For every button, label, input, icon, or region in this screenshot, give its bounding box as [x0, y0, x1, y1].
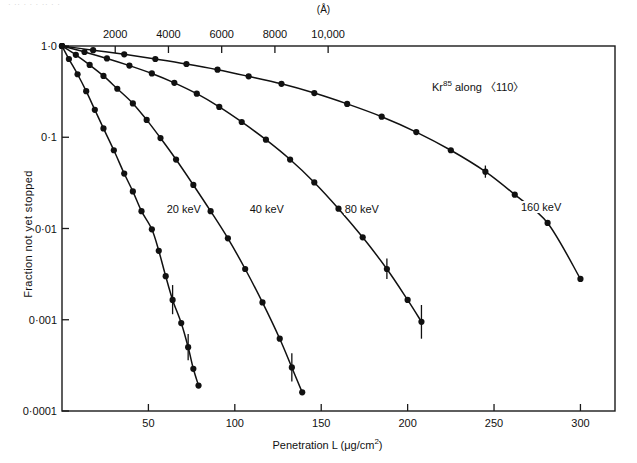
- data-point: [178, 320, 184, 326]
- data-point: [171, 80, 177, 86]
- data-point: [81, 49, 87, 55]
- data-point: [130, 188, 136, 194]
- data-point: [278, 81, 284, 87]
- data-point: [87, 62, 93, 68]
- data-point: [242, 266, 248, 272]
- top-tick-label: 10,000: [311, 28, 345, 40]
- y-tick-label: 1·0: [41, 40, 57, 52]
- data-point: [173, 156, 179, 162]
- curve-label-20-kev: 20 keV: [166, 203, 202, 215]
- data-point: [289, 364, 295, 370]
- data-point: [214, 67, 220, 73]
- data-point: [156, 248, 162, 254]
- data-point: [83, 88, 89, 94]
- data-point: [130, 100, 136, 106]
- x-tick-label: 200: [398, 417, 416, 429]
- annotation-mass-number: 85: [443, 79, 452, 88]
- data-point: [335, 206, 341, 212]
- data-point: [577, 276, 583, 282]
- data-point: [100, 125, 106, 131]
- data-point: [100, 73, 106, 79]
- y-tick-label: 0·01: [35, 223, 57, 235]
- data-curves: [62, 46, 580, 392]
- data-point: [138, 208, 144, 214]
- top-tick-label: 6000: [209, 28, 233, 40]
- data-point: [185, 344, 191, 350]
- data-point: [208, 208, 214, 214]
- data-point: [183, 61, 189, 67]
- data-point: [225, 235, 231, 241]
- x-tick-label: 50: [142, 417, 154, 429]
- data-point: [190, 182, 196, 188]
- x-axis-title: Penetration L (μg/cm2): [0, 437, 637, 451]
- chart-plot-area: [0, 0, 637, 463]
- data-point: [74, 71, 80, 77]
- data-point: [360, 234, 366, 240]
- top-tick-label: 8000: [263, 28, 287, 40]
- data-point: [418, 319, 424, 325]
- sample-annotation: Kr85 along 〈110〉: [432, 78, 524, 94]
- data-point: [216, 104, 222, 110]
- data-point: [311, 90, 317, 96]
- figure-root: · ·· · · · ·· · · (Å) 50100150200250300 …: [0, 0, 637, 463]
- data-point: [287, 156, 293, 162]
- y-axis-title: Fraction not yet stopped: [22, 144, 34, 324]
- top-tick-label: 4000: [156, 28, 180, 40]
- data-point: [344, 101, 350, 107]
- data-point: [545, 220, 551, 226]
- y-tick-label: 0·1: [41, 131, 57, 143]
- data-point: [111, 147, 117, 153]
- data-point: [170, 297, 176, 303]
- data-point: [73, 52, 79, 58]
- data-point: [448, 147, 454, 153]
- data-point: [239, 119, 245, 125]
- data-point: [195, 382, 201, 388]
- data-point: [299, 389, 305, 395]
- data-point: [512, 192, 518, 198]
- data-point: [379, 114, 385, 120]
- data-point: [121, 170, 127, 176]
- x-axis-title-text: Penetration L (μg/cm: [272, 439, 374, 451]
- data-point: [121, 51, 127, 57]
- x-tick-label: 300: [571, 417, 589, 429]
- data-point: [405, 297, 411, 303]
- x-tick-label: 150: [312, 417, 330, 429]
- data-point: [104, 55, 110, 61]
- y-tick-label: 0·0001: [23, 405, 57, 417]
- curve-label-160-kev: 160 keV: [520, 201, 562, 213]
- x-tick-label: 250: [485, 417, 503, 429]
- data-point: [59, 43, 65, 49]
- data-point: [126, 62, 132, 68]
- data-point: [149, 70, 155, 76]
- x-tick-label: 100: [226, 417, 244, 429]
- data-point: [92, 107, 98, 113]
- curve-label-80-kev: 80 keV: [344, 203, 380, 215]
- curve-40-kev: [62, 46, 302, 392]
- data-point: [66, 56, 72, 62]
- data-point: [149, 226, 155, 232]
- data-point: [263, 137, 269, 143]
- top-tick-label: 2000: [103, 28, 127, 40]
- curve-label-40-kev: 40 keV: [249, 203, 285, 215]
- data-point: [157, 135, 163, 141]
- data-point: [413, 129, 419, 135]
- data-point: [311, 179, 317, 185]
- data-point: [246, 73, 252, 79]
- data-point: [163, 273, 169, 279]
- curve-20-kev: [62, 46, 199, 386]
- data-point: [384, 266, 390, 272]
- annotation-element: Kr: [432, 81, 443, 93]
- x-axis-title-tail: ): [379, 439, 383, 451]
- data-point: [259, 299, 265, 305]
- axis-ticks: [62, 46, 580, 411]
- data-point: [482, 169, 488, 175]
- data-point: [194, 91, 200, 97]
- data-point: [152, 56, 158, 62]
- data-point: [144, 117, 150, 123]
- annotation-direction: along 〈110〉: [452, 81, 525, 93]
- data-point: [90, 47, 96, 53]
- data-point: [114, 86, 120, 92]
- data-point: [190, 366, 196, 372]
- data-point: [277, 336, 283, 342]
